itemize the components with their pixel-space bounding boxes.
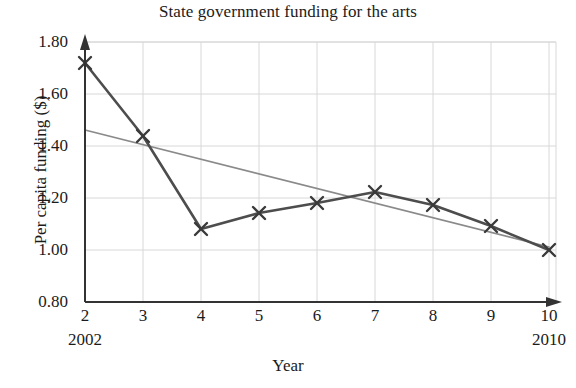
chart-figure: State government funding for the arts Pe… bbox=[0, 0, 576, 388]
grid-horizontal bbox=[85, 42, 556, 250]
x-axis-arrowhead bbox=[546, 297, 562, 307]
plot-area bbox=[0, 0, 576, 388]
grid-vertical bbox=[143, 42, 556, 302]
